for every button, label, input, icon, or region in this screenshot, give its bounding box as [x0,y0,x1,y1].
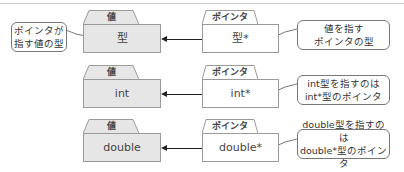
value-tab: 値 [83,119,139,133]
callout-line: 指す値の型 [12,37,66,50]
callout-line: 値を指す [298,22,389,35]
pointer-tab: ポインタ [202,10,258,24]
pointer-arrow [165,39,202,40]
callout-line: ポインタが [12,24,66,37]
pointer-tab: ポインタ [202,65,258,79]
callout-line: double*型のポインタ [298,144,389,170]
callout-line: int型を指すのは [298,77,389,90]
pointer-box: double* [202,133,279,162]
callout-line: ポインタの型 [298,35,389,48]
pointer-target-type-callout: ポインタが 指す値の型 [11,22,67,52]
pointer-box: int* [202,79,279,108]
value-box: double [83,133,161,162]
pointer-box: 型* [202,24,279,53]
row-callout: int型を指すのは int*型のポインタ [297,75,390,105]
value-box: int [83,79,161,108]
value-tab: 値 [83,65,139,79]
callout-line: double型を指すのは [298,118,389,144]
pointer-arrow [165,148,202,149]
row-callout: double型を指すのは double*型のポインタ [297,129,390,159]
value-tab: 値 [83,10,139,24]
callout-line: int*型のポインタ [298,90,389,103]
value-box: 型 [83,24,161,53]
pointer-arrow [165,94,202,95]
pointer-tab: ポインタ [202,119,258,133]
row-callout: 値を指す ポインタの型 [297,20,390,50]
